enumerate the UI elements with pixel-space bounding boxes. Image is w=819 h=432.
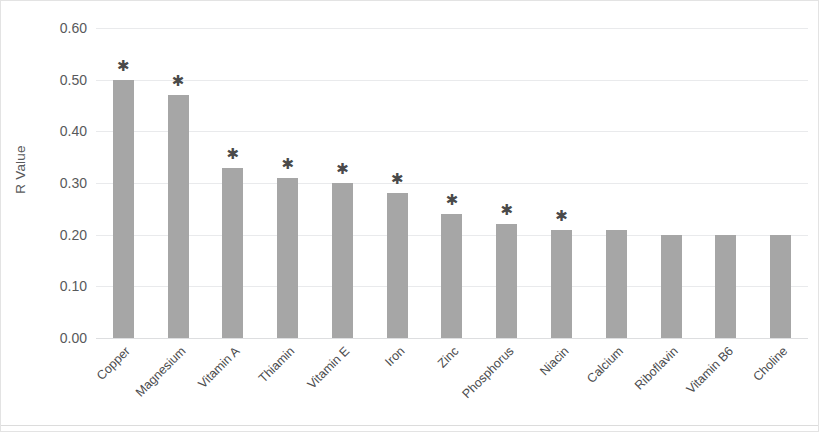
x-axis-slot: Vitamin B6	[698, 338, 753, 428]
significance-asterisk-niacin: ✱	[555, 209, 568, 224]
bar-niacin[interactable]: ✱	[551, 230, 572, 339]
significance-asterisk-phosphorus: ✱	[500, 203, 513, 218]
bar-riboflavin[interactable]	[661, 235, 682, 338]
bar-zinc[interactable]: ✱	[441, 214, 462, 338]
bar-slot-copper: ✱	[96, 0, 151, 338]
significance-asterisk-vitamin-e: ✱	[336, 162, 349, 177]
x-axis-slot: Phosphorus	[479, 338, 534, 428]
bar-thiamin[interactable]: ✱	[277, 178, 298, 338]
y-axis-tick-0: 0.00	[35, 330, 87, 346]
x-axis-label-calcium: Calcium	[584, 344, 626, 386]
x-axis-slot: Vitamin E	[315, 338, 370, 428]
bars-container: ✱✱✱✱✱✱✱✱✱	[96, 0, 808, 338]
bar-slot-calcium	[589, 0, 644, 338]
bar-vitamin-b6[interactable]	[715, 235, 736, 338]
x-axis-label-niacin: Niacin	[537, 344, 571, 378]
bar-slot-thiamin: ✱	[260, 0, 315, 338]
x-axis-label-zinc: Zinc	[435, 344, 462, 371]
y-axis-title-label: R Value	[13, 145, 28, 193]
significance-asterisk-vitamin-a: ✱	[227, 147, 240, 162]
x-axis-category-labels: CopperMagnesiumVitamin AThiaminVitamin E…	[96, 338, 808, 428]
x-axis-slot: Niacin	[534, 338, 589, 428]
y-axis-tick-0_5: 0.50	[35, 72, 87, 88]
x-axis-label-thiamin: Thiamin	[256, 344, 297, 385]
bar-phosphorus[interactable]: ✱	[496, 224, 517, 338]
bar-slot-riboflavin	[644, 0, 699, 338]
bar-choline[interactable]	[770, 235, 791, 338]
x-axis-slot: Vitamin A	[206, 338, 261, 428]
y-axis-tick-0_4: 0.40	[35, 123, 87, 139]
bar-slot-vitamin-b6	[698, 0, 753, 338]
bar-magnesium[interactable]: ✱	[168, 95, 189, 338]
x-axis-label-choline: Choline	[751, 344, 791, 384]
y-axis-tick-0_1: 0.10	[35, 278, 87, 294]
y-axis-tick-0_6: 0.60	[35, 20, 87, 36]
y-axis-tick-0_2: 0.20	[35, 227, 87, 243]
bar-slot-niacin: ✱	[534, 0, 589, 338]
y-axis-tick-0_3: 0.30	[35, 175, 87, 191]
x-axis-label-iron: Iron	[382, 344, 407, 369]
bar-copper[interactable]: ✱	[113, 80, 134, 338]
significance-asterisk-iron: ✱	[391, 172, 404, 187]
significance-asterisk-thiamin: ✱	[281, 157, 294, 172]
bar-vitamin-e[interactable]: ✱	[332, 183, 353, 338]
bottom-divider	[1, 425, 818, 426]
bar-chart-figure: R Value 0.600.500.400.300.200.100.00 ✱✱✱…	[0, 0, 819, 432]
y-axis-tick-labels: 0.600.500.400.300.200.100.00	[35, 1, 87, 346]
y-axis-title: R Value	[9, 1, 31, 338]
bar-slot-vitamin-a: ✱	[206, 0, 261, 338]
bar-slot-choline	[753, 0, 808, 338]
bar-slot-iron: ✱	[370, 0, 425, 338]
x-axis-slot: Iron	[370, 338, 425, 428]
plot-area: ✱✱✱✱✱✱✱✱✱	[96, 28, 808, 338]
bar-slot-zinc: ✱	[425, 0, 480, 338]
bar-calcium[interactable]	[606, 230, 627, 339]
x-axis-slot: Choline	[753, 338, 808, 428]
significance-asterisk-zinc: ✱	[446, 193, 459, 208]
bar-vitamin-a[interactable]: ✱	[222, 168, 243, 339]
bar-slot-phosphorus: ✱	[479, 0, 534, 338]
significance-asterisk-magnesium: ✱	[172, 74, 185, 89]
bar-slot-magnesium: ✱	[151, 0, 206, 338]
significance-asterisk-copper: ✱	[117, 59, 130, 74]
bar-iron[interactable]: ✱	[387, 193, 408, 338]
bar-slot-vitamin-e: ✱	[315, 0, 370, 338]
x-axis-label-copper: Copper	[94, 344, 133, 383]
